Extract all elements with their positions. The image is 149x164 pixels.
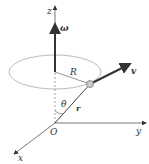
origin-label: O xyxy=(50,127,58,137)
velocity-label: v xyxy=(131,66,137,76)
x-axis-label: x xyxy=(18,153,23,163)
position-label: r xyxy=(76,103,81,113)
omega-label: ω xyxy=(60,23,69,33)
rotation-diagram: z ω R v θ r O y x xyxy=(0,0,149,164)
radius-label: R xyxy=(69,67,77,77)
y-axis-label: y xyxy=(135,126,142,136)
x-axis xyxy=(14,123,55,154)
theta-label: θ xyxy=(61,99,67,109)
velocity-vector xyxy=(90,64,130,84)
z-axis-label: z xyxy=(46,6,52,16)
particle xyxy=(87,81,94,88)
theta-arc xyxy=(55,111,63,114)
